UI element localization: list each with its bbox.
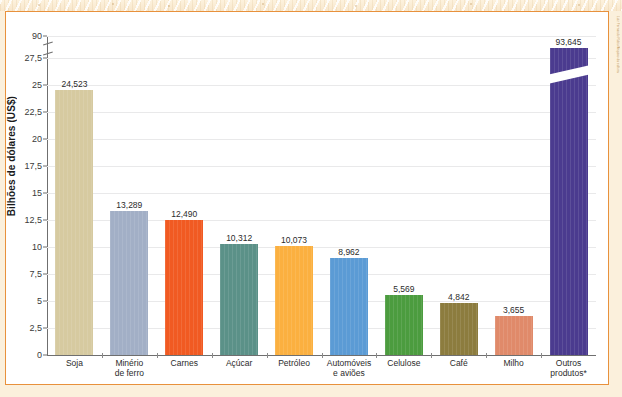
bar-slot: 24,523 bbox=[47, 30, 102, 355]
bar-texture bbox=[110, 211, 148, 355]
category-label-line: Celulose bbox=[376, 358, 431, 368]
bar-slot: 10,073 bbox=[267, 30, 322, 355]
x-axis-separator-tick bbox=[322, 353, 323, 358]
y-tick-label: 7,5 bbox=[29, 269, 42, 279]
bar-value-label: 93,645 bbox=[556, 37, 582, 47]
x-axis-category-label: Petróleo bbox=[267, 358, 322, 368]
bar[interactable] bbox=[330, 258, 368, 355]
x-axis-category-label: Celulose bbox=[376, 358, 431, 368]
bar-texture bbox=[385, 295, 423, 355]
y-tick-label: 10 bbox=[32, 242, 42, 252]
bar[interactable] bbox=[220, 244, 258, 355]
x-axis-category-label: Automóveise aviões bbox=[322, 358, 377, 378]
x-axis-separator-tick bbox=[486, 353, 487, 358]
category-label-line: de ferro bbox=[102, 368, 157, 378]
x-axis-separator-tick bbox=[541, 353, 542, 358]
y-axis-title: Bilhões de dólares (US$) bbox=[6, 96, 17, 216]
bar-slot: 8,962 bbox=[322, 30, 377, 355]
category-label-line: Soja bbox=[47, 358, 102, 368]
category-label-line: Café bbox=[431, 358, 486, 368]
x-axis-separator-tick bbox=[157, 353, 158, 358]
x-axis-category-label: Outrosprodutos* bbox=[541, 358, 596, 378]
category-label-line: Açúcar bbox=[212, 358, 267, 368]
bar-value-label: 5,569 bbox=[393, 284, 414, 294]
x-axis-category-label: Carnes bbox=[157, 358, 212, 368]
bar-slot: 3,655 bbox=[486, 30, 541, 355]
image-credit: Luiz Fernando Rubio/Arquivo da editora bbox=[608, 16, 620, 216]
bar-slot: 5,569 bbox=[376, 30, 431, 355]
bar-slot: 13,289 bbox=[102, 30, 157, 355]
bar-value-label: 8,962 bbox=[338, 247, 359, 257]
bar-value-label: 3,655 bbox=[503, 305, 524, 315]
bar-value-label: 4,842 bbox=[448, 292, 469, 302]
y-tick-label: 25 bbox=[32, 80, 42, 90]
category-label-line: e aviões bbox=[322, 368, 377, 378]
x-axis-category-label: Açúcar bbox=[212, 358, 267, 368]
bar-value-label: 13,289 bbox=[116, 200, 142, 210]
y-tick-label: 27,5 bbox=[24, 53, 42, 63]
x-axis-separator-tick bbox=[376, 353, 377, 358]
x-axis-category-label: Soja bbox=[47, 358, 102, 368]
x-axis-category-label: Minériode ferro bbox=[102, 358, 157, 378]
chart-figure: Luiz Fernando Rubio/Arquivo da editora B… bbox=[0, 0, 622, 397]
bar-texture bbox=[330, 258, 368, 355]
bar-value-label: 24,523 bbox=[61, 79, 87, 89]
y-tick-label: 17,5 bbox=[24, 161, 42, 171]
x-axis-category-label: Milho bbox=[486, 358, 541, 368]
paper-texture-band bbox=[0, 0, 622, 11]
x-axis-separator-tick bbox=[212, 353, 213, 358]
bar[interactable] bbox=[495, 316, 533, 355]
bar[interactable] bbox=[165, 220, 203, 355]
bar[interactable] bbox=[55, 90, 93, 355]
category-label-line: Carnes bbox=[157, 358, 212, 368]
bar-series: 24,52313,28912,49010,31210,0738,9625,569… bbox=[47, 30, 596, 355]
bar-texture bbox=[550, 48, 588, 355]
x-axis-separator-tick bbox=[267, 353, 268, 358]
category-label-line: produtos* bbox=[541, 368, 596, 378]
bar[interactable] bbox=[550, 48, 588, 355]
category-label-line: Automóveis bbox=[322, 358, 377, 368]
bar-value-label: 10,073 bbox=[281, 235, 307, 245]
bar-texture bbox=[495, 316, 533, 355]
bar-texture bbox=[165, 220, 203, 355]
bar[interactable] bbox=[275, 246, 313, 355]
x-axis-separator-tick bbox=[431, 353, 432, 358]
bar-slot: 93,645 bbox=[541, 30, 596, 355]
bar-slot: 4,842 bbox=[431, 30, 486, 355]
y-tick-label: 90 bbox=[32, 31, 42, 41]
x-axis-labels: SojaMinériode ferroCarnesAçúcarPetróleoA… bbox=[47, 358, 596, 392]
y-tick-label: 5 bbox=[37, 296, 42, 306]
bar-value-label: 10,312 bbox=[226, 233, 252, 243]
plot-area: 02,557,51012,51517,52022,52527,590 24,52… bbox=[47, 30, 596, 355]
bar-texture bbox=[440, 303, 478, 355]
bar-texture bbox=[275, 246, 313, 355]
bar-slot: 12,490 bbox=[157, 30, 212, 355]
x-axis-category-label: Café bbox=[431, 358, 486, 368]
y-tick-label: 0 bbox=[37, 350, 42, 360]
bar-value-label: 12,490 bbox=[171, 209, 197, 219]
bar[interactable] bbox=[385, 295, 423, 355]
y-tick-label: 15 bbox=[32, 188, 42, 198]
bar-slot: 10,312 bbox=[212, 30, 267, 355]
y-tick-label: 22,5 bbox=[24, 107, 42, 117]
x-axis-separator-tick bbox=[102, 353, 103, 358]
y-tick-label: 2,5 bbox=[29, 323, 42, 333]
y-tick-label: 20 bbox=[32, 134, 42, 144]
bar[interactable] bbox=[110, 211, 148, 355]
bar-texture bbox=[220, 244, 258, 355]
category-label-line: Petróleo bbox=[267, 358, 322, 368]
category-label-line: Minério bbox=[102, 358, 157, 368]
category-label-line: Outros bbox=[541, 358, 596, 368]
bar-texture bbox=[55, 90, 93, 355]
category-label-line: Milho bbox=[486, 358, 541, 368]
y-tick-label: 12,5 bbox=[24, 215, 42, 225]
bar[interactable] bbox=[440, 303, 478, 355]
